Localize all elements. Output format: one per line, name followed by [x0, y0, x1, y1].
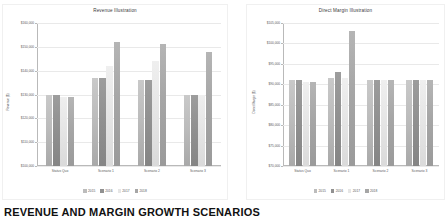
legend-swatch	[365, 189, 368, 192]
bar[interactable]	[60, 97, 67, 166]
bar[interactable]	[68, 97, 75, 166]
y-tick-label: $75,000	[268, 144, 280, 148]
legend-swatch	[100, 189, 103, 192]
legend-label: 2016	[336, 189, 343, 193]
y-tick-label: $90,000	[268, 82, 280, 86]
legend-item[interactable]: 2016	[331, 189, 343, 193]
legend-swatch	[118, 189, 121, 192]
bar[interactable]	[310, 82, 316, 166]
legend-item[interactable]: 2015	[83, 189, 95, 193]
y-tick-label: $95,000	[268, 62, 280, 66]
y-axis-title: Direct Margin ($)	[253, 86, 257, 118]
bar[interactable]	[296, 80, 302, 166]
legend-label: 2017	[353, 189, 360, 193]
bar-group: Scenario 2	[361, 23, 400, 166]
bar[interactable]	[420, 80, 426, 166]
y-axis-title: Revenue ($)	[7, 87, 11, 117]
bar[interactable]	[342, 78, 348, 166]
bar[interactable]	[46, 95, 53, 167]
x-tick-label: Scenario 1	[322, 169, 361, 173]
y-tick-label: $85,000	[268, 103, 280, 107]
bar[interactable]	[289, 80, 295, 166]
y-tick-label: $150,000	[21, 45, 34, 49]
bar[interactable]	[413, 80, 419, 166]
legend-label: 2018	[139, 189, 146, 193]
x-tick-label: Scenario 2	[361, 169, 400, 173]
y-tick-label: $140,000	[21, 69, 34, 73]
bar[interactable]	[328, 78, 334, 166]
bar[interactable]	[349, 31, 355, 166]
y-tick-label: $160,000	[21, 21, 34, 25]
plot-area: $70,000$75,000$80,000$85,000$90,000$95,0…	[283, 23, 439, 166]
y-tick-mark	[281, 166, 283, 167]
bar-group: Scenario 3	[400, 23, 439, 166]
legend-item[interactable]: 2018	[365, 189, 377, 193]
chart-revenue-illustration[interactable]: Revenue Illustration Revenue ($) $100,00…	[2, 4, 228, 200]
y-tick-label: $130,000	[21, 93, 34, 97]
worksheet-canvas: Revenue Illustration Revenue ($) $100,00…	[0, 0, 447, 217]
bar[interactable]	[427, 80, 433, 166]
bar[interactable]	[92, 78, 99, 166]
bar-group: Scenario 1	[322, 23, 361, 166]
chart-direct-margin-illustration[interactable]: Direct Margin Illustration Direct Margin…	[246, 4, 445, 200]
legend-item[interactable]: 2015	[314, 189, 326, 193]
y-tick-label: $120,000	[21, 116, 34, 120]
legend-label: 2017	[122, 189, 129, 193]
bar[interactable]	[388, 80, 394, 166]
chart-legend: 2015201620172018	[247, 189, 444, 193]
y-tick-label: $105,000	[267, 21, 280, 25]
plot-area: $100,000$110,000$120,000$130,000$140,000…	[37, 23, 221, 166]
bar[interactable]	[191, 95, 198, 167]
bar[interactable]	[145, 80, 152, 166]
y-tick-label: $70,000	[268, 164, 280, 168]
bar-group: Scenario 1	[83, 23, 129, 166]
bar[interactable]	[160, 44, 167, 166]
legend-label: 2015	[88, 189, 95, 193]
legend-item[interactable]: 2017	[348, 189, 360, 193]
bar[interactable]	[53, 95, 60, 167]
bar-group: Scenario 2	[129, 23, 175, 166]
legend-swatch	[348, 189, 351, 192]
legend-item[interactable]: 2017	[118, 189, 130, 193]
y-tick-mark	[35, 166, 37, 167]
gridline	[37, 166, 221, 167]
bar[interactable]	[99, 78, 106, 166]
y-tick-label: $100,000	[21, 164, 34, 168]
bar[interactable]	[406, 80, 412, 166]
legend-item[interactable]: 2016	[100, 189, 112, 193]
bar[interactable]	[303, 82, 309, 166]
bar-groups: Status QuoScenario 1Scenario 2Scenario 3	[283, 23, 439, 166]
bar[interactable]	[152, 61, 159, 166]
legend-swatch	[331, 189, 334, 192]
x-tick-label: Status Quo	[37, 169, 83, 173]
legend-swatch	[83, 189, 86, 192]
legend-swatch	[314, 189, 317, 192]
legend-label: 2015	[319, 189, 326, 193]
bar[interactable]	[367, 80, 373, 166]
bar[interactable]	[335, 72, 341, 166]
bar[interactable]	[184, 95, 191, 167]
y-tick-label: $80,000	[268, 123, 280, 127]
gridline	[283, 166, 439, 167]
page-heading: REVENUE AND MARGIN GROWTH SCENARIOS	[4, 206, 260, 217]
bar[interactable]	[106, 66, 113, 166]
legend-item[interactable]: 2018	[135, 189, 147, 193]
x-tick-label: Scenario 2	[129, 169, 175, 173]
chart-title: Revenue Illustration	[3, 8, 227, 13]
bar[interactable]	[381, 80, 387, 166]
legend-label: 2018	[370, 189, 377, 193]
bar[interactable]	[206, 52, 213, 166]
x-tick-label: Scenario 3	[400, 169, 439, 173]
bar-group: Scenario 3	[175, 23, 221, 166]
bar[interactable]	[138, 80, 145, 166]
x-tick-label: Scenario 1	[83, 169, 129, 173]
legend-label: 2016	[105, 189, 112, 193]
bar-group: Status Quo	[283, 23, 322, 166]
chart-legend: 2015201620172018	[3, 189, 227, 193]
legend-swatch	[135, 189, 138, 192]
bar[interactable]	[374, 80, 380, 166]
bar[interactable]	[198, 95, 205, 167]
y-tick-label: $100,000	[267, 41, 280, 45]
y-tick-label: $110,000	[21, 140, 34, 144]
bar[interactable]	[114, 42, 121, 166]
